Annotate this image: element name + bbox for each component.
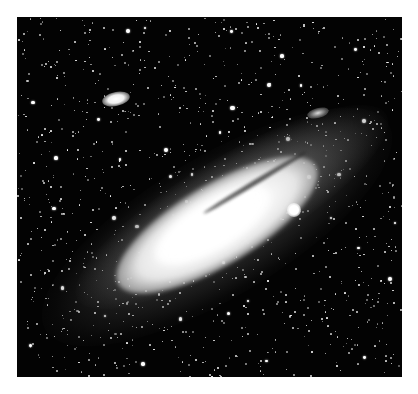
star	[188, 37, 190, 39]
star	[384, 81, 386, 83]
star	[41, 64, 43, 66]
star	[72, 213, 73, 214]
star	[126, 342, 128, 344]
star	[195, 359, 197, 361]
star	[310, 375, 312, 377]
star	[164, 154, 166, 156]
star	[319, 271, 320, 272]
star	[18, 259, 20, 261]
star	[173, 166, 175, 168]
star	[62, 208, 63, 209]
star	[37, 228, 38, 229]
star	[51, 105, 52, 106]
star	[262, 309, 264, 311]
star	[154, 67, 156, 69]
star	[121, 54, 123, 56]
star	[299, 39, 301, 41]
star	[348, 295, 350, 297]
star	[168, 76, 169, 77]
galaxy-photo	[17, 17, 402, 377]
star	[300, 300, 301, 301]
star	[357, 344, 359, 346]
star	[25, 58, 26, 59]
star	[50, 217, 52, 219]
star	[381, 81, 382, 82]
star	[245, 327, 246, 328]
star	[364, 88, 366, 90]
star	[30, 274, 32, 276]
star	[40, 334, 41, 335]
star	[118, 114, 119, 115]
star	[230, 47, 231, 48]
star	[111, 107, 113, 109]
star	[86, 112, 88, 114]
star	[385, 19, 387, 21]
star	[112, 143, 114, 145]
star	[338, 103, 340, 105]
star	[377, 323, 379, 325]
star	[198, 34, 199, 35]
star	[92, 70, 94, 72]
star	[360, 72, 361, 73]
bright-star	[230, 106, 234, 110]
star	[303, 314, 305, 316]
bright-star	[363, 356, 366, 359]
star	[395, 246, 396, 247]
star	[72, 251, 73, 252]
star	[201, 145, 203, 147]
bright-star	[354, 48, 357, 51]
star	[148, 51, 150, 53]
star	[320, 67, 322, 69]
star	[209, 55, 211, 57]
star	[363, 94, 365, 96]
star	[57, 239, 58, 240]
star	[221, 22, 222, 23]
star	[139, 73, 140, 74]
star	[371, 278, 372, 279]
star	[205, 361, 206, 362]
star	[341, 58, 343, 60]
star	[203, 347, 204, 348]
star	[27, 324, 28, 325]
star	[284, 92, 285, 93]
star	[189, 376, 191, 377]
star	[357, 204, 358, 205]
star	[393, 158, 395, 160]
star	[241, 112, 243, 114]
star	[156, 154, 158, 156]
star	[90, 156, 91, 157]
star	[174, 87, 176, 89]
star	[237, 356, 238, 357]
star	[265, 34, 267, 36]
star	[169, 56, 170, 57]
star	[275, 351, 276, 352]
star	[282, 312, 283, 313]
star	[51, 142, 52, 143]
star	[88, 359, 90, 361]
star	[288, 89, 290, 91]
star	[268, 352, 269, 353]
star	[376, 327, 377, 328]
star	[135, 361, 137, 363]
star	[52, 356, 53, 357]
star	[255, 79, 256, 80]
star	[24, 200, 25, 201]
star	[303, 26, 305, 28]
bright-star	[119, 158, 122, 161]
star	[105, 193, 106, 194]
star	[25, 170, 26, 171]
star	[276, 303, 277, 304]
star	[39, 211, 41, 213]
star	[38, 354, 40, 356]
star	[190, 355, 191, 356]
star	[215, 22, 216, 23]
star	[219, 99, 220, 100]
star	[90, 64, 92, 66]
star	[46, 334, 47, 335]
star	[348, 68, 350, 70]
star	[102, 151, 103, 152]
star	[158, 61, 160, 63]
star	[341, 283, 342, 284]
star	[27, 129, 29, 131]
bright-star	[144, 27, 146, 29]
